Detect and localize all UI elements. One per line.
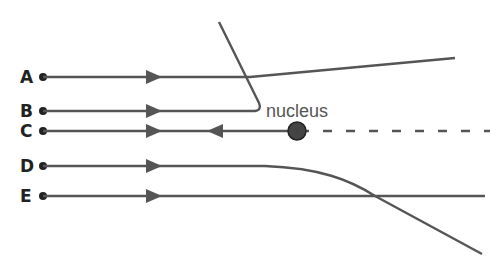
reverse-arrow-icon <box>207 124 223 138</box>
nucleus-label: nucleus <box>266 101 328 121</box>
path-d <box>43 166 482 254</box>
arrow-icons <box>146 70 223 203</box>
path-label-a: A <box>20 67 34 87</box>
path-label-e: E <box>20 186 32 206</box>
path-label-b: B <box>20 101 33 121</box>
scattering-diagram: A B C D E nucleus <box>0 0 503 268</box>
path-b <box>43 22 260 111</box>
path-a <box>43 58 455 77</box>
start-dots <box>39 73 47 200</box>
nucleus-icon <box>288 122 306 140</box>
path-label-c: C <box>20 121 32 141</box>
path-label-d: D <box>20 156 34 176</box>
